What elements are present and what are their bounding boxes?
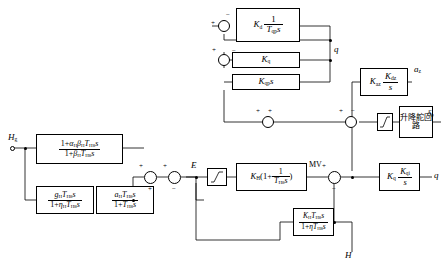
kd-frac-den-s: s xyxy=(277,24,281,34)
ll-num-s: s xyxy=(95,139,98,148)
kqi-den: s xyxy=(403,177,406,187)
sign-plus-1b: − xyxy=(226,12,230,19)
block-lead-lag-hg: 1+αHβHTH8s 1+βHTH8s xyxy=(36,134,123,164)
block-kqp-s: Kqps xyxy=(232,74,300,90)
block-kaz-kdz-over-s: Kaz Kdz s xyxy=(360,68,408,96)
signal-MV: MV xyxy=(309,160,322,169)
signal-E: E xyxy=(191,160,197,170)
gh-den-1: 1+ xyxy=(50,200,59,209)
kqp-s: s xyxy=(270,76,274,86)
ll-num-1: 1+ xyxy=(61,139,70,148)
summer-hg-2 xyxy=(168,171,181,184)
block-ah-th8s: aHTH8s 1+TH8s xyxy=(96,186,154,214)
gh-num-s: s xyxy=(72,190,75,199)
sign-plus-7b: − xyxy=(332,186,336,193)
kh-paren-close: ) xyxy=(290,171,293,181)
sign-plus-5: + xyxy=(139,163,143,170)
sign-plus-4b: − xyxy=(351,108,355,115)
signal-q-right: q xyxy=(434,170,439,180)
khf-num-s: s xyxy=(321,211,324,220)
signal-H: H xyxy=(345,250,352,260)
saturation-block-mid xyxy=(207,168,227,186)
signal-delta-e: δe xyxy=(427,108,434,118)
sign-minus-6: − xyxy=(172,186,176,193)
wire-layer xyxy=(0,0,443,265)
sign-plus-4: + xyxy=(339,108,343,115)
ll-den-s: s xyxy=(91,149,94,158)
terminal-hg xyxy=(10,146,15,151)
summer-q-mid xyxy=(218,54,230,66)
sign-plus-6: + xyxy=(163,163,167,170)
ah-num-s: s xyxy=(132,190,135,199)
junction-q-bus-mid xyxy=(329,59,332,62)
kh-one: 1+ xyxy=(263,171,272,181)
signal-az: az xyxy=(414,64,421,74)
sign-plus-7: + xyxy=(322,163,326,170)
summer-hg-1 xyxy=(144,171,157,184)
sign-plus-3: + xyxy=(256,108,260,115)
signal-hg: Hg xyxy=(8,132,17,142)
block-gh-th8s: gHTH8s 1+ηHTH8s xyxy=(36,186,94,214)
junction-e-fb xyxy=(195,176,198,179)
junction-mv-out xyxy=(351,176,354,179)
block-kh-th8s-over-1-eta: KHTH8s 1+ηTH8s xyxy=(293,208,334,236)
sign-plus-2b: − xyxy=(232,48,236,55)
block-kd-over-tqps: Kd 1 Tqps xyxy=(236,8,300,42)
summer-q-top xyxy=(218,20,230,32)
summer-main-left xyxy=(262,116,274,128)
diagram-canvas: Kd 1 Tqps Kq Kqps Kaz Kdz s + − + − + + … xyxy=(0,0,443,265)
sign-plus-2: + xyxy=(212,47,216,54)
summer-mv xyxy=(328,171,341,184)
kd-gain-sub: d xyxy=(259,23,262,29)
junction-h-fb xyxy=(333,221,336,224)
block-kh-pi: KH(1+ 1 TH8s ) xyxy=(236,163,307,191)
junction-q-bus-top xyxy=(329,39,332,42)
kaz-sub: az xyxy=(376,80,381,86)
sign-plus-5b: + xyxy=(148,186,152,193)
gh-den-s: s xyxy=(77,200,80,209)
kdz-num-sub: dz xyxy=(391,75,396,81)
signal-q-top: q xyxy=(334,44,339,54)
kh-frac-den-s: s xyxy=(284,176,287,185)
block-kq-kqi-over-s: Kq Kqi s xyxy=(379,163,420,191)
kqi-num-sub: qi xyxy=(406,170,410,176)
ll-den-1: 1+ xyxy=(65,149,74,158)
kqi-gain-sub: q xyxy=(393,175,396,181)
sign-plus-1: + xyxy=(211,20,215,27)
block-kq: Kq xyxy=(232,52,300,68)
saturation-block-top xyxy=(377,113,393,131)
khf-den-s: s xyxy=(323,222,326,231)
kdz-den: s xyxy=(389,82,393,92)
junction-ah-in xyxy=(132,199,135,202)
kq-sub: q xyxy=(268,58,271,64)
summer-main-right xyxy=(345,116,357,128)
sign-plus-3b: + xyxy=(268,108,272,115)
junction-hg-split xyxy=(24,147,27,150)
